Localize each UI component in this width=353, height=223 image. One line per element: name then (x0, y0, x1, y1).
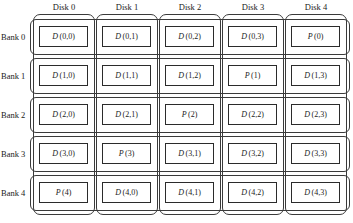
bank-header-label-3: Bank 3 (1, 149, 25, 159)
block-bank3-disk0: D(3,0) (39, 143, 88, 164)
block-symbol: D (304, 110, 311, 120)
disk-header-label-2: Disk 2 (179, 2, 201, 12)
block-index: (2,0) (59, 110, 74, 120)
block-symbol: D (178, 32, 185, 42)
block-symbol: D (304, 149, 311, 159)
disk-header-1: Disk 1 (96, 2, 158, 13)
block-symbol: D (241, 32, 248, 42)
disk-header-label-1: Disk 1 (116, 2, 138, 12)
block-bank3-disk1: P(3) (102, 143, 151, 164)
block-bank2-disk0: D(2,0) (39, 104, 88, 125)
block-index: (1,1) (122, 71, 137, 81)
block-index: (0,3) (248, 32, 263, 42)
block-bank1-disk2: D(1,2) (165, 65, 214, 86)
block-index: (1,2) (185, 71, 200, 81)
block-index: (0,1) (122, 32, 137, 42)
block-symbol: D (115, 32, 122, 42)
disk-header-label-0: Disk 0 (53, 2, 75, 12)
block-index: (0) (314, 32, 323, 42)
block-symbol: D (178, 149, 185, 159)
block-bank1-disk4: D(1,3) (291, 65, 340, 86)
block-bank4-disk4: D(4,3) (291, 182, 340, 203)
block-bank2-disk2: P(2) (165, 104, 214, 125)
block-bank0-disk4: P(0) (291, 26, 340, 47)
block-symbol: D (115, 110, 122, 120)
block-index: (1,3) (311, 71, 326, 81)
block-index: (3,2) (248, 149, 263, 159)
block-bank1-disk1: D(1,1) (102, 65, 151, 86)
block-bank2-disk3: D(2,2) (228, 104, 277, 125)
disk-header-3: Disk 3 (222, 2, 284, 13)
disk-header-4: Disk 4 (285, 2, 347, 13)
block-symbol: D (52, 149, 59, 159)
block-index: (4,2) (248, 188, 263, 198)
block-index: (0,0) (59, 32, 74, 42)
block-index: (1,0) (59, 71, 74, 81)
block-symbol: D (241, 149, 248, 159)
block-bank2-disk1: D(2,1) (102, 104, 151, 125)
bank-header-2: Bank 2 (1, 110, 31, 121)
block-bank4-disk2: D(4,1) (165, 182, 214, 203)
block-index: (3) (125, 149, 134, 159)
bank-header-3: Bank 3 (1, 149, 31, 160)
block-index: (2,2) (248, 110, 263, 120)
bank-header-1: Bank 1 (1, 71, 31, 82)
block-bank4-disk0: P(4) (39, 182, 88, 203)
bank-header-label-4: Bank 4 (1, 188, 25, 198)
bank-header-0: Bank 0 (1, 32, 31, 43)
disk-header-label-3: Disk 3 (242, 2, 264, 12)
block-symbol: D (52, 32, 59, 42)
block-bank1-disk0: D(1,0) (39, 65, 88, 86)
bank-header-label-1: Bank 1 (1, 71, 25, 81)
block-index: (0,2) (185, 32, 200, 42)
block-bank0-disk0: D(0,0) (39, 26, 88, 47)
block-symbol: D (304, 188, 311, 198)
block-index: (2) (188, 110, 197, 120)
block-bank0-disk3: D(0,3) (228, 26, 277, 47)
block-bank0-disk2: D(0,2) (165, 26, 214, 47)
block-symbol: D (115, 188, 122, 198)
block-index: (4,0) (122, 188, 137, 198)
block-symbol: D (52, 71, 59, 81)
block-index: (1) (251, 71, 260, 81)
block-bank0-disk1: D(0,1) (102, 26, 151, 47)
block-symbol: D (241, 110, 248, 120)
block-symbol: D (304, 71, 311, 81)
block-index: (3,0) (59, 149, 74, 159)
disk-header-2: Disk 2 (159, 2, 221, 13)
block-symbol: D (178, 71, 185, 81)
bank-header-4: Bank 4 (1, 188, 31, 199)
block-index: (4,3) (311, 188, 326, 198)
block-index: (2,3) (311, 110, 326, 120)
raid5-layout-diagram: Disk 0 Disk 1 Disk 2 Disk 3 Disk 4 Bank … (0, 0, 353, 223)
block-bank1-disk3: P(1) (228, 65, 277, 86)
block-bank2-disk4: D(2,3) (291, 104, 340, 125)
block-bank3-disk2: D(3,1) (165, 143, 214, 164)
disk-header-0: Disk 0 (33, 2, 95, 13)
block-symbol: D (52, 110, 59, 120)
block-symbol: D (115, 71, 122, 81)
block-index: (3,1) (185, 149, 200, 159)
block-bank3-disk4: D(3,3) (291, 143, 340, 164)
bank-header-label-2: Bank 2 (1, 110, 25, 120)
block-symbol: D (241, 188, 248, 198)
block-bank3-disk3: D(3,2) (228, 143, 277, 164)
block-symbol: D (178, 188, 185, 198)
block-index: (4,1) (185, 188, 200, 198)
block-bank4-disk1: D(4,0) (102, 182, 151, 203)
block-index: (4) (62, 188, 71, 198)
bank-header-label-0: Bank 0 (1, 32, 25, 42)
disk-header-label-4: Disk 4 (305, 2, 327, 12)
block-index: (3,3) (311, 149, 326, 159)
block-bank4-disk3: D(4,2) (228, 182, 277, 203)
block-index: (2,1) (122, 110, 137, 120)
